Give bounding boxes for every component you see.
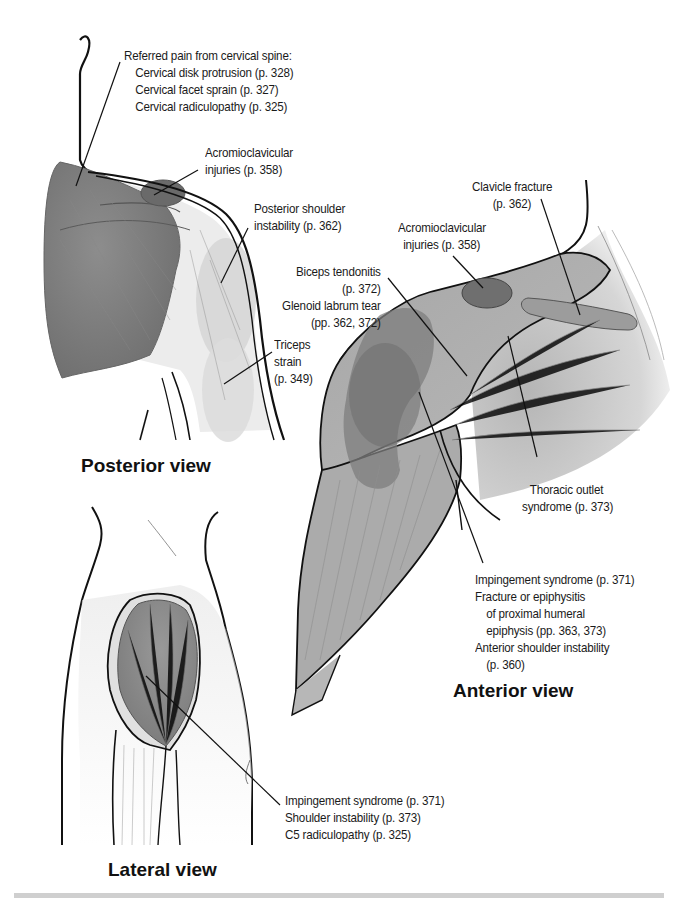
referred-pain-item: Cervical disk protrusion (p. 328) [124,64,293,81]
bottom-divider [14,893,664,898]
posterior-view-title: Posterior view [81,455,211,477]
label-clavicle-fracture: Clavicle fracture (p. 362) [472,178,552,212]
label-posterior-acromioclavicular: Acromioclavicular injuries (p. 358) [205,144,293,178]
referred-pain-item: Cervical facet sprain (p. 327) [124,81,293,98]
lateral-view-title: Lateral view [108,859,217,881]
label-lateral-deltoid-group: Impingement syndrome (p. 371) Shoulder i… [285,792,445,843]
label-thoracic-outlet: Thoracic outlet syndrome (p. 373) [522,481,613,515]
label-biceps-glenoid: Biceps tendonitis (p. 372) Glenoid labru… [282,263,381,331]
referred-pain-item: Cervical radiculopathy (p. 325) [124,98,293,115]
referred-pain-heading: Referred pain from cervical spine: [124,47,293,64]
label-anterior-acromioclavicular: Acromioclavicular injuries (p. 358) [398,219,486,253]
label-posterior-shoulder-instability: Posterior shoulder instability (p. 362) [254,200,345,234]
label-triceps-strain: Triceps strain (p. 349) [274,336,313,387]
anterior-view-title: Anterior view [453,680,573,702]
label-impingement-group: Impingement syndrome (p. 371) Fracture o… [475,571,635,673]
lateral-view-illustration [62,507,280,845]
shoulder-pain-diagram: Referred pain from cervical spine: Cervi… [0,0,681,912]
label-referred-pain-cervical: Referred pain from cervical spine: Cervi… [124,47,293,115]
